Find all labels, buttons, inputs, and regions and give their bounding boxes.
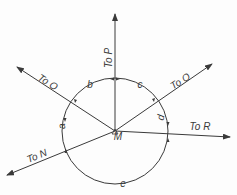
center-label: M bbox=[114, 131, 123, 142]
ray-label-to-o-right: To O bbox=[168, 71, 192, 92]
arc-label-b: b bbox=[87, 79, 93, 90]
ray-label-to-o-left: To O bbox=[36, 72, 60, 93]
arc-label-c: c bbox=[138, 79, 143, 90]
ray-to-r bbox=[115, 131, 230, 137]
arc-label-a: a bbox=[56, 123, 67, 130]
angle-diagram: M To P To O To O To R To N b c d a e bbox=[0, 0, 237, 195]
ray-label-to-r: To R bbox=[190, 121, 211, 132]
diagram-canvas: M To P To O To O To R To N b c d a e bbox=[0, 0, 237, 195]
ray-to-o-left bbox=[17, 67, 115, 131]
arc-label-d: d bbox=[155, 113, 167, 121]
arc-label-e: e bbox=[120, 178, 126, 189]
ray-label-to-n: To N bbox=[25, 146, 49, 164]
ray-label-to-p: To P bbox=[103, 48, 114, 69]
ray-to-n bbox=[7, 131, 115, 175]
